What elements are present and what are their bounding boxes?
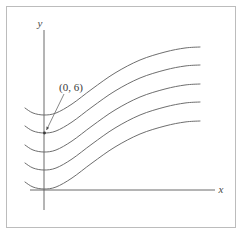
solution-curve xyxy=(25,65,200,133)
point-label-0-6: (0, 6) xyxy=(59,81,83,94)
annotation-point-dot xyxy=(43,132,46,135)
figure-container: x y (0, 6) xyxy=(0,0,244,236)
solution-curve xyxy=(25,102,200,170)
axes-group xyxy=(30,30,215,210)
solution-curve xyxy=(25,121,200,189)
plot-canvas: x y (0, 6) xyxy=(0,0,244,236)
solution-curve-family xyxy=(25,47,200,189)
solution-curve xyxy=(25,84,200,152)
annotation-arrow xyxy=(47,94,65,130)
x-axis-label: x xyxy=(218,183,224,195)
y-axis-label: y xyxy=(37,17,43,29)
